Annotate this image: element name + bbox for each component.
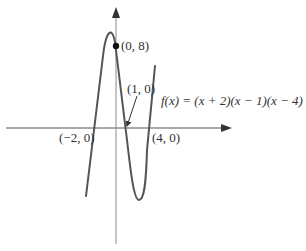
root-four-label: (4, 0) (152, 130, 180, 145)
x-axis (6, 124, 232, 132)
x-axis-arrow-icon (221, 124, 232, 132)
y-intercept-point (113, 43, 119, 49)
function-label: f(x) = (x + 2)(x − 1)(x − 4) (161, 93, 303, 108)
root-one-arrow (127, 96, 137, 126)
function-graph: (0, 8) (1, 0) (−2, 0) (4, 0) f(x) = (x +… (0, 0, 306, 251)
root-one-label: (1, 0) (127, 81, 155, 96)
y-intercept-label: (0, 8) (121, 38, 149, 53)
cubic-curve (86, 33, 155, 200)
y-axis-arrow-icon (112, 7, 120, 18)
root-neg-two-label: (−2, 0) (59, 130, 95, 145)
